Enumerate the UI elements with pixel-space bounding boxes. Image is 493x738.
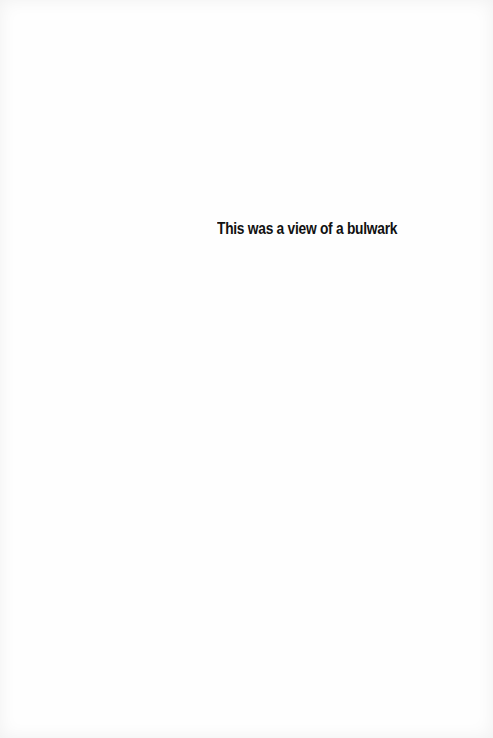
page-text: This was a view of a bulwark	[217, 219, 397, 239]
document-page: This was a view of a bulwark	[0, 0, 493, 738]
